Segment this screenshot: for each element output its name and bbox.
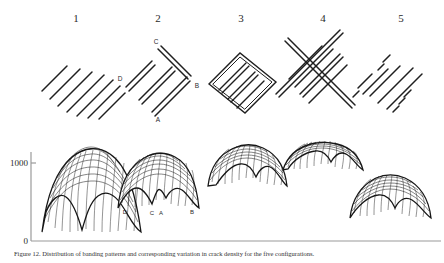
figure-canvas: C D B A	[0, 0, 444, 263]
surface2-label-A: A	[159, 210, 163, 216]
diagram2-label-A: A	[156, 116, 161, 123]
surface2-label-C: C	[150, 210, 155, 216]
diagram-panel-4	[276, 30, 355, 108]
diagram2-label-B: B	[195, 82, 199, 89]
diagram2-label-D: D	[118, 75, 123, 82]
y-axis-label-1000: 1000	[0, 158, 28, 168]
surface-plot-3	[208, 145, 287, 186]
diagram-panel-3	[209, 53, 276, 113]
surface2-label-B: B	[190, 209, 194, 215]
panel-number-1: 1	[66, 12, 86, 24]
y-axis-label-0: 0	[0, 236, 28, 246]
diagram-panel-1	[42, 66, 125, 119]
panel-number-4: 4	[313, 12, 333, 24]
surface2-label-D: D	[123, 209, 128, 215]
surface-plot-4	[283, 141, 363, 170]
diagram-panel-5	[353, 55, 422, 112]
panel-number-3: 3	[231, 12, 251, 24]
panel-number-5: 5	[391, 12, 411, 24]
panel-number-2: 2	[148, 12, 168, 24]
surface-plot-5	[350, 175, 431, 218]
figure-caption: Figure 12. Distribution of banding patte…	[14, 250, 438, 263]
diagram-panel-2	[126, 46, 191, 116]
diagram2-label-C: C	[154, 38, 159, 45]
